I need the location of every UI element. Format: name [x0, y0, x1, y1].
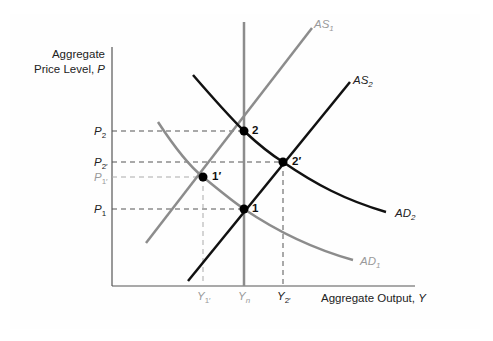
p1-label: P1	[94, 203, 107, 218]
as2-label: AS2	[352, 74, 373, 89]
as1-label: AS1	[313, 18, 334, 33]
p1prime-label: P1′	[94, 171, 108, 186]
figure-frame: Aggregate Price Level, P P2 P2′ P1′ P1 Y…	[0, 0, 493, 341]
point-1prime	[199, 173, 208, 182]
p2prime-label: P2′	[94, 156, 108, 171]
x-axis-label: Aggregate Output, Y	[321, 292, 427, 304]
y1prime-label: Y1′	[197, 290, 211, 305]
point-1-label: 1	[252, 202, 259, 214]
point-2-label: 2	[252, 124, 258, 136]
y-axis-label-line1: Aggregate	[52, 48, 105, 60]
point-1prime-label: 1′	[212, 170, 221, 182]
as1-curve	[146, 28, 312, 243]
ad-as-diagram: Aggregate Price Level, P P2 P2′ P1′ P1 Y…	[0, 0, 493, 341]
point-2prime	[279, 158, 288, 167]
point-2	[240, 127, 249, 136]
p2-label: P2	[94, 125, 107, 140]
y-axis-label-line2: Price Level, P	[34, 63, 105, 75]
ad1-label: AD1	[359, 255, 380, 270]
point-2prime-label: 2′	[292, 155, 301, 167]
y2prime-label: Y2′	[277, 290, 291, 305]
yn-label: Yn	[238, 290, 251, 305]
point-1	[240, 205, 249, 214]
ad2-label: AD2	[394, 207, 416, 222]
